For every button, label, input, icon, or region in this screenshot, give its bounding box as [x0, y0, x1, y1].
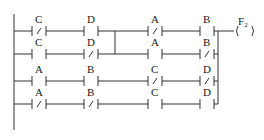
contact-label: A	[151, 36, 159, 48]
contact-B-no: B	[84, 63, 98, 86]
contact-label: C	[151, 63, 158, 75]
contact-A-nc: A	[32, 86, 46, 109]
contact-D-no: D	[84, 13, 98, 36]
contact-D-nc: D	[200, 63, 214, 86]
contact-C-no: C	[32, 36, 46, 59]
contact-label: A	[35, 63, 43, 75]
rung-3: ABCD	[14, 63, 218, 86]
contact-label: B	[87, 86, 94, 98]
rung-2: CDAB	[14, 36, 218, 59]
rung-4: ABCD	[14, 86, 218, 109]
contact-label: D	[203, 86, 211, 98]
contact-C-nc: C	[148, 63, 162, 86]
contact-A-no: A	[32, 63, 46, 86]
contact-label: B	[87, 63, 94, 75]
ladder-diagram: CDABCDABABCDABCD F2	[0, 0, 264, 140]
contact-C-nc: C	[32, 13, 46, 36]
contact-B-no: B	[200, 13, 214, 36]
contact-B-nc: B	[84, 86, 98, 109]
contact-label: D	[87, 36, 95, 48]
contact-D-nc: D	[84, 36, 98, 59]
contact-label: B	[203, 13, 210, 25]
contact-label: D	[87, 13, 95, 25]
contact-label: D	[203, 63, 211, 75]
output-label: F2	[238, 15, 248, 29]
contact-A-nc: A	[148, 13, 162, 36]
contact-label: A	[151, 13, 159, 25]
contact-B-nc: B	[200, 36, 214, 59]
contact-label: A	[35, 86, 43, 98]
contact-label: B	[203, 36, 210, 48]
output-coil: F2	[237, 15, 254, 36]
contact-C-no: C	[148, 86, 162, 109]
contact-label: C	[151, 86, 158, 98]
contact-A-no: A	[148, 36, 162, 59]
contact-D-no: D	[200, 86, 214, 109]
rung-1: CDAB	[14, 13, 218, 36]
contact-label: C	[35, 36, 42, 48]
contact-label: C	[35, 13, 42, 25]
